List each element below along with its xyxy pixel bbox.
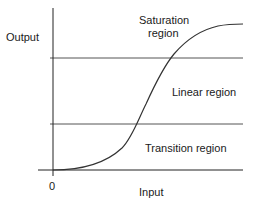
saturation-region-label-line2: region bbox=[148, 27, 179, 39]
x-axis-label: Input bbox=[139, 186, 163, 198]
s-curve-diagram: Output 0 Input Saturation region Linear … bbox=[0, 0, 254, 209]
saturation-region-label-line1: Saturation bbox=[139, 14, 189, 26]
origin-label: 0 bbox=[49, 180, 55, 192]
linear-region-label: Linear region bbox=[172, 86, 236, 98]
y-axis-label: Output bbox=[6, 31, 39, 43]
transition-region-label: Transition region bbox=[145, 142, 227, 154]
